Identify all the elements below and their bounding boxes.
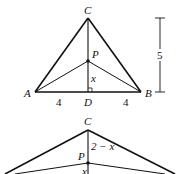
label-c: C: [84, 4, 92, 16]
label-height: 5: [157, 49, 163, 61]
label-b: B: [145, 87, 152, 99]
figure-1-triangle: C P A B D x 4 4 5: [23, 4, 165, 108]
point-p: [86, 59, 90, 63]
label-p: P: [91, 48, 99, 60]
label-ad-length: 4: [56, 96, 62, 108]
label-db-length: 4: [123, 96, 129, 108]
label-c-2: C: [84, 115, 92, 127]
label-x-2: x: [81, 165, 87, 174]
label-x: x: [90, 72, 96, 84]
label-d: D: [83, 96, 92, 108]
label-p-2: P: [77, 150, 85, 162]
figure-2-triangle: C P 2 − x x: [5, 115, 175, 174]
geometry-diagram: C P A B D x 4 4 5 C P 2 − x x: [0, 0, 180, 174]
label-a: A: [23, 87, 31, 99]
label-2-minus-x: 2 − x: [91, 140, 114, 152]
